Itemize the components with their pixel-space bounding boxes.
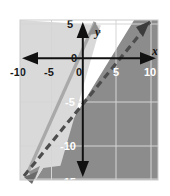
y-tick-label--15: -15: [60, 176, 76, 188]
y-tick-label-0: 0: [71, 52, 77, 64]
y-tick-label--5: -5: [65, 96, 75, 108]
inequality-graph-figure: y x -10 -5 0 5 10 5 0 -5 -10 -15: [0, 0, 170, 196]
x-tick-label-10: 10: [144, 66, 156, 78]
y-tick-label--10: -10: [60, 140, 76, 152]
x-tick-label--5: -5: [44, 66, 54, 78]
x-tick-label-5: 5: [113, 66, 119, 78]
x-tick-label-0: 0: [76, 66, 82, 78]
x-axis-label: x: [151, 44, 158, 58]
coordinate-plane: y x -10 -5 0 5 10 5 0 -5 -10 -15: [0, 0, 170, 196]
x-tick-label--10: -10: [10, 66, 26, 78]
y-axis-label: y: [93, 25, 101, 39]
